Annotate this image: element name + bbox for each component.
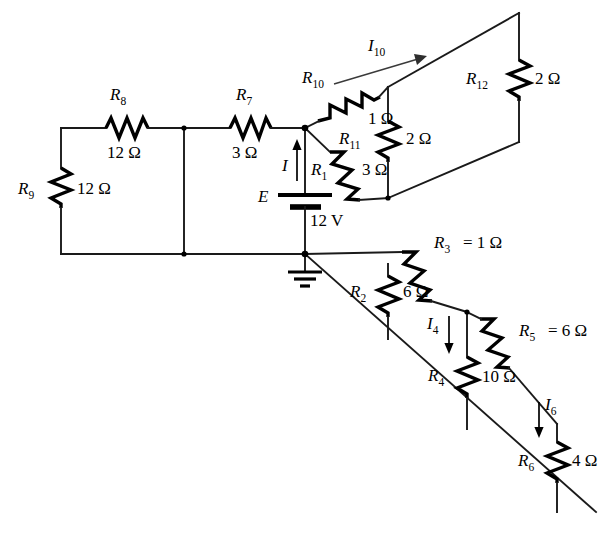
label-r5-name: R5 — [518, 321, 535, 343]
resistor-r1-symbol — [330, 152, 360, 200]
circuit-canvas: R8 12 Ω R7 3 Ω R9 12 Ω I E 12 V R1 3 Ω R… — [0, 0, 613, 542]
label-current-i4: I4 — [426, 314, 439, 336]
label-r3-value: = 1 Ω — [463, 233, 502, 252]
wire-main-lower-diagonal — [305, 254, 596, 512]
label-r12-name: R12 — [465, 69, 488, 91]
label-source-value: 12 V — [310, 211, 344, 230]
label-current-i: I — [281, 156, 289, 175]
label-r1-name: R1 — [310, 160, 327, 182]
wire-r10-to-node-a — [379, 87, 388, 97]
label-r2-value: 6 Ω — [403, 282, 428, 301]
label-current-i6: I6 — [544, 395, 557, 417]
wire-upper-bottom-diagonal — [388, 142, 519, 198]
label-r7-value: 3 Ω — [232, 143, 257, 162]
resistor-r4-symbol — [457, 357, 478, 398]
label-r1-value: 3 Ω — [362, 160, 387, 179]
circuit-diagram: R8 12 Ω R7 3 Ω R9 12 Ω I E 12 V R1 3 Ω R… — [0, 0, 613, 542]
wire-r3-to-r5node — [431, 301, 467, 312]
label-r10-value: 1 Ω — [368, 109, 393, 128]
label-r7-name: R7 — [235, 85, 252, 107]
label-r4-value: 10 Ω — [482, 367, 516, 386]
current-arrow-i10-head — [414, 54, 427, 65]
label-current-i10: I10 — [367, 36, 385, 58]
current-arrow-i4-head — [444, 343, 453, 354]
wire-topnode-to-r1 — [305, 128, 330, 152]
wire-top-diagonal — [388, 13, 519, 87]
node-r11-bottom — [385, 195, 390, 200]
wire-groundnode-to-r3 — [305, 252, 402, 254]
label-r2-name: R2 — [349, 282, 366, 304]
node-top-junction — [302, 125, 309, 132]
label-r9-value: 12 Ω — [77, 179, 111, 198]
node-ground-junction — [302, 251, 309, 258]
resistor-r9-symbol — [51, 168, 71, 208]
label-r11-name: R11 — [338, 129, 361, 151]
label-r6-value: 4 Ω — [572, 451, 597, 470]
current-arrow-i6-head — [534, 427, 543, 438]
resistor-r7-symbol — [230, 118, 271, 138]
node-r4-top — [464, 309, 469, 314]
resistor-r5-symbol — [480, 319, 510, 368]
current-arrow-i-head — [292, 139, 301, 150]
current-arrow-i10-shaft — [334, 59, 418, 84]
resistor-r12-symbol — [509, 60, 530, 101]
node-mid-bottom — [181, 251, 186, 256]
label-r11-value: 2 Ω — [406, 129, 431, 148]
label-r12-value: 2 Ω — [535, 69, 560, 88]
label-r9-name: R9 — [17, 179, 34, 201]
node-mid-top — [181, 125, 186, 130]
label-r8-name: R8 — [109, 85, 126, 107]
label-r10-name: R10 — [301, 68, 324, 90]
wire-r1-to-node-b — [359, 198, 388, 200]
label-r5-value: = 6 Ω — [548, 321, 587, 340]
label-source-e: E — [257, 187, 269, 206]
label-r4-name: R4 — [427, 366, 444, 388]
resistor-r2-symbol — [378, 276, 399, 317]
label-r3-name: R3 — [433, 233, 450, 255]
label-r8-value: 12 Ω — [107, 143, 141, 162]
resistor-r8-symbol — [106, 118, 148, 138]
